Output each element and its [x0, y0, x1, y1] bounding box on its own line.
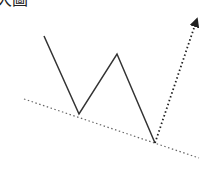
price-line: [44, 36, 155, 143]
support-trendline: [24, 99, 199, 158]
double-bottom-diagram: [0, 0, 217, 174]
breakout-arrow: [155, 22, 196, 143]
